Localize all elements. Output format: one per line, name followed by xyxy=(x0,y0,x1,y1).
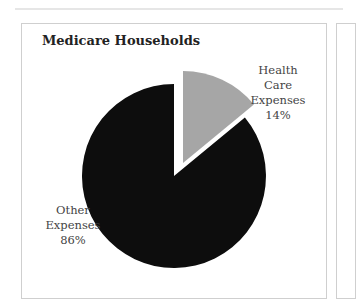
other-expenses-label: Other Expenses 86% xyxy=(43,203,103,248)
label-percent: 14% xyxy=(243,108,313,123)
health-care-label: Health Care Expenses 14% xyxy=(243,63,313,123)
label-line: Other xyxy=(43,203,103,218)
label-line: Care xyxy=(243,78,313,93)
label-percent: 86% xyxy=(43,233,103,248)
label-line: Expenses xyxy=(43,218,103,233)
label-line: Health xyxy=(243,63,313,78)
label-line: Expenses xyxy=(243,93,313,108)
